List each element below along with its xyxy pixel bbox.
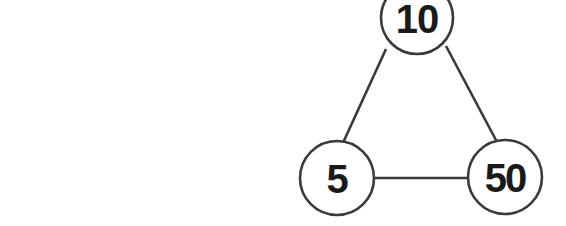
edge-top-to-bottom-right [446, 46, 497, 142]
node-bottom-left-label: 5 [326, 157, 348, 201]
node-top-label: 10 [396, 0, 439, 41]
graph-diagram: 10 5 50 [0, 0, 566, 226]
edge-top-to-bottom-left [342, 49, 386, 145]
node-bottom-left[interactable]: 5 [300, 141, 374, 215]
node-top[interactable]: 10 [381, 0, 453, 54]
diagram-canvas: 10 5 50 [0, 0, 566, 226]
node-bottom-right[interactable]: 50 [468, 140, 542, 214]
node-bottom-right-label: 50 [485, 156, 526, 200]
